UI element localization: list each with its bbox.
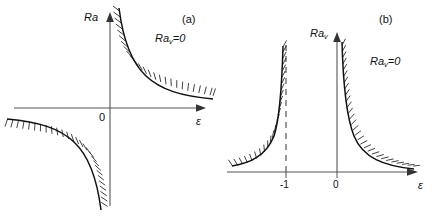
panel-b-y-axis-label: Rav (310, 28, 328, 41)
panel-a-annotation-tail: =0 (173, 32, 186, 44)
panel-a-curve-lower-left (5, 119, 108, 210)
panel-b-annotation: Rav=0 (370, 56, 400, 69)
panel-b-x-axis-label: ε (418, 180, 423, 191)
panel-a-annotation-base: Ra (155, 32, 169, 44)
panel-a-annotation: Rav=0 (155, 33, 185, 46)
panel-a-y-axis-label: Ra (84, 12, 98, 23)
panel-a-curve-upper-right (113, 6, 216, 99)
panel-b-y-axis-label-base: Ra (310, 27, 324, 39)
panel-b-xtick-label-minus-one: -1 (280, 180, 289, 190)
panel-b: (b) Rav ε -1 0 Rav=0 (222, 0, 445, 218)
panel-b-annotation-tail: =0 (388, 55, 401, 67)
panel-b-y-axis (333, 32, 341, 172)
panel-b-tag: (b) (379, 14, 392, 25)
panel-a-x-axis-label: ε (196, 116, 201, 127)
panel-a-tag: (a) (182, 14, 195, 25)
panel-b-xtick-label-zero: 0 (333, 180, 339, 190)
panel-a: (a) Ra ε 0 Rav=0 (0, 0, 222, 218)
panel-a-origin-label: 0 (99, 112, 105, 123)
panel-b-curve-left (229, 40, 287, 166)
panel-a-plot (0, 0, 222, 218)
panel-b-x-ticks (286, 172, 337, 178)
panel-b-x-axis (227, 168, 418, 176)
panel-b-y-axis-label-subscript: v (324, 32, 328, 41)
panel-b-annotation-base: Ra (370, 55, 384, 67)
figure-container: (a) Ra ε 0 Rav=0 (0, 0, 445, 218)
panel-a-y-axis (106, 12, 114, 206)
